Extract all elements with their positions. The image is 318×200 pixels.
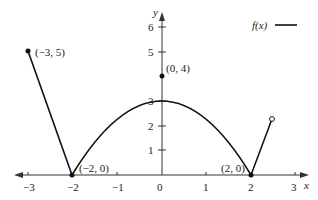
y-tick-label: 1: [148, 144, 154, 156]
legend: f(x): [252, 19, 297, 32]
series-f: [28, 51, 272, 175]
point-label: (−3, 5): [35, 46, 65, 59]
x-tick-label: −1: [112, 181, 124, 193]
x-axis-right-arrow-icon: [300, 172, 309, 178]
closed-point-icon: [26, 49, 31, 54]
closed-point-icon: [160, 74, 165, 79]
left-line-segment: [28, 51, 72, 175]
open-point-icon: [270, 117, 275, 122]
y-axis: 1 2 3 5 6 y: [148, 6, 166, 175]
y-tick-label: 2: [148, 120, 154, 132]
x-axis-left-arrow-icon: [14, 172, 23, 178]
y-axis-label: y: [152, 6, 158, 18]
closed-point-icon: [70, 173, 75, 178]
point-label: (2, 0): [221, 162, 245, 175]
x-tick-label: −3: [23, 181, 35, 193]
x-tick-label: 2: [248, 181, 254, 193]
y-tick-label: 5: [148, 46, 154, 58]
right-line-segment: [251, 119, 272, 175]
x-axis: −3 −2 −1 0 1 2 3 x: [14, 172, 309, 193]
x-tick-label: −2: [67, 181, 79, 193]
point-label: (0, 4): [166, 62, 190, 75]
point-label: (−2, 0): [79, 162, 109, 175]
x-tick-label: 3: [291, 181, 297, 193]
x-tick-label: 1: [203, 181, 209, 193]
function-graph: −3 −2 −1 0 1 2 3 x 1 2 3 5 6 y (−3, 5) (…: [0, 0, 318, 200]
x-tick-label: 0: [157, 181, 163, 193]
x-axis-label: x: [303, 179, 309, 191]
closed-point-icon: [249, 173, 254, 178]
y-tick-label: 6: [148, 21, 154, 33]
legend-label: f(x): [252, 19, 268, 32]
y-axis-arrow-icon: [159, 12, 165, 21]
